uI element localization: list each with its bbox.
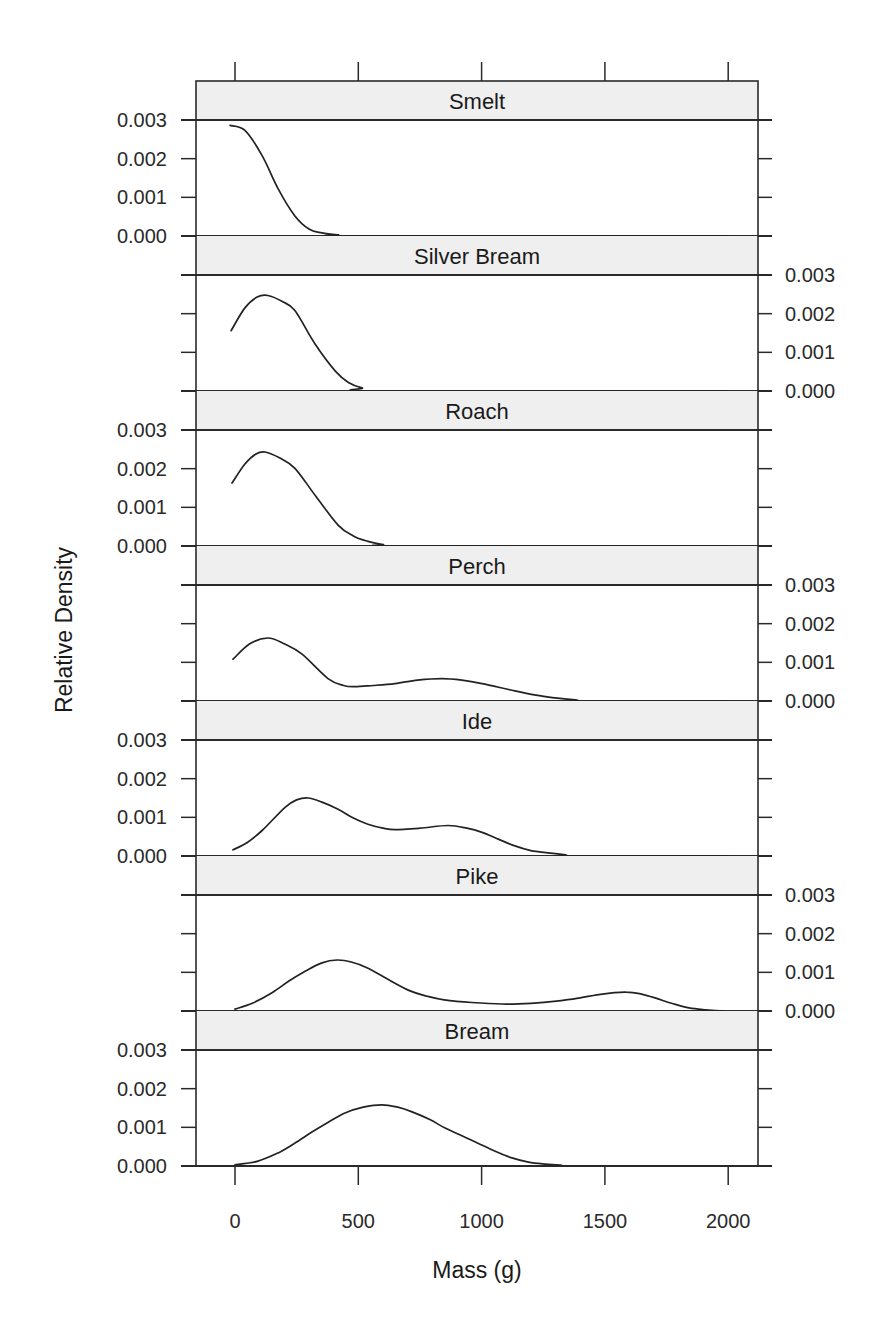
panels-group: Smelt0.0000.0010.0020.003Silver Bream0.0… (117, 81, 835, 1177)
panel-roach: Roach0.0000.0010.0020.003 (117, 391, 772, 557)
strip-label: Bream (445, 1019, 510, 1044)
x-tick-label: 1500 (583, 1210, 628, 1232)
y-tick-label: 0.003 (785, 574, 835, 596)
x-tick-label: 2000 (706, 1210, 751, 1232)
x-tick-label: 1000 (459, 1210, 504, 1232)
density-curve (230, 125, 728, 236)
y-tick-label: 0.003 (785, 884, 835, 906)
y-tick-label: 0.001 (785, 341, 835, 363)
density-curve (233, 798, 728, 856)
y-tick-label: 0.001 (785, 651, 835, 673)
y-tick-label: 0.001 (117, 1116, 167, 1138)
y-tick-label: 0.000 (117, 535, 167, 557)
y-tick-label: 0.003 (117, 419, 167, 441)
x-tick-label: 500 (342, 1210, 375, 1232)
panel-bream: Bream0.0000.0010.0020.003 (117, 1011, 772, 1177)
y-tick-label: 0.001 (117, 806, 167, 828)
y-tick-label: 0.002 (117, 148, 167, 170)
density-curve (232, 452, 728, 546)
y-tick-label: 0.000 (785, 380, 835, 402)
density-curve (231, 295, 728, 391)
strip-label: Smelt (449, 89, 505, 114)
y-tick-label: 0.003 (117, 1039, 167, 1061)
y-tick-label: 0.002 (785, 923, 835, 945)
panel-ide: Ide0.0000.0010.0020.003 (117, 701, 772, 867)
y-tick-label: 0.002 (785, 303, 835, 325)
x-tick-label: 0 (229, 1210, 240, 1232)
y-tick-label: 0.000 (117, 225, 167, 247)
y-axis-title: Relative Density (51, 546, 77, 713)
y-tick-label: 0.002 (117, 768, 167, 790)
y-tick-label: 0.000 (117, 845, 167, 867)
y-tick-label: 0.000 (785, 690, 835, 712)
strip-label: Perch (448, 554, 505, 579)
y-tick-label: 0.003 (117, 109, 167, 131)
strip-label: Pike (456, 864, 499, 889)
density-curve (235, 1105, 728, 1166)
y-tick-label: 0.002 (785, 613, 835, 635)
y-tick-label: 0.003 (785, 264, 835, 286)
panel-smelt: Smelt0.0000.0010.0020.003 (117, 81, 772, 247)
panel-silver-bream: Silver Bream0.0000.0010.0020.003 (181, 236, 835, 402)
x-axis-title: Mass (g) (432, 1257, 521, 1283)
panel-perch: Perch0.0000.0010.0020.003 (181, 546, 835, 712)
y-tick-label: 0.001 (117, 186, 167, 208)
y-tick-label: 0.001 (785, 961, 835, 983)
density-curve (233, 638, 728, 701)
density-panel-chart: Smelt0.0000.0010.0020.003Silver Bream0.0… (0, 0, 892, 1319)
y-tick-label: 0.003 (117, 729, 167, 751)
strip-label: Silver Bream (414, 244, 540, 269)
y-tick-label: 0.001 (117, 496, 167, 518)
y-tick-label: 0.000 (117, 1155, 167, 1177)
strip-label: Ide (462, 709, 493, 734)
y-tick-label: 0.002 (117, 1078, 167, 1100)
y-tick-label: 0.000 (785, 1000, 835, 1022)
strip-label: Roach (445, 399, 509, 424)
density-curve (235, 960, 724, 1011)
y-tick-label: 0.002 (117, 458, 167, 480)
panel-pike: Pike0.0000.0010.0020.003 (181, 856, 835, 1022)
